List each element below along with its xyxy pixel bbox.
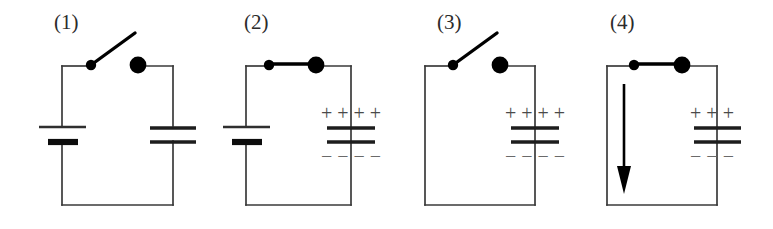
switch-hinge-terminal[interactable] xyxy=(629,60,639,70)
switch-blade-open[interactable] xyxy=(91,33,135,65)
circuit-panel-1: (1) xyxy=(0,0,195,229)
switch-contact-terminal[interactable] xyxy=(492,57,509,74)
switch-hinge-terminal[interactable] xyxy=(264,60,274,70)
switch-contact-terminal[interactable] xyxy=(130,57,147,74)
switch-blade-open[interactable] xyxy=(453,33,497,65)
circuit-diagram-3: + + + + − − − − xyxy=(383,0,578,229)
switch-hinge-terminal[interactable] xyxy=(448,60,458,70)
circuit-panel-3: (3) + + + + − − − − xyxy=(383,0,578,229)
circuit-diagram-1 xyxy=(0,0,195,229)
capacitor-positive-charges: + + + + xyxy=(321,102,381,124)
current-arrow-head-icon xyxy=(617,166,631,194)
circuit-figure: (1) xyxy=(0,0,773,229)
capacitor-negative-charges: − − − xyxy=(690,145,734,167)
capacitor-positive-charges: + + + xyxy=(690,102,734,124)
circuit-diagram-4: + + + − − − xyxy=(578,0,773,229)
switch-contact-terminal[interactable] xyxy=(674,57,691,74)
capacitor-negative-charges: − − − − xyxy=(321,145,381,167)
switch-hinge-terminal[interactable] xyxy=(86,60,96,70)
capacitor-positive-charges: + + + + xyxy=(505,102,565,124)
capacitor-negative-charges: − − − − xyxy=(505,145,565,167)
switch-contact-terminal[interactable] xyxy=(308,57,325,74)
circuit-panel-4: (4) + + + − − − xyxy=(578,0,773,229)
circuit-diagram-2: + + + + − − − − xyxy=(190,0,385,229)
circuit-panel-2: (2) + + + + − − − − xyxy=(190,0,385,229)
